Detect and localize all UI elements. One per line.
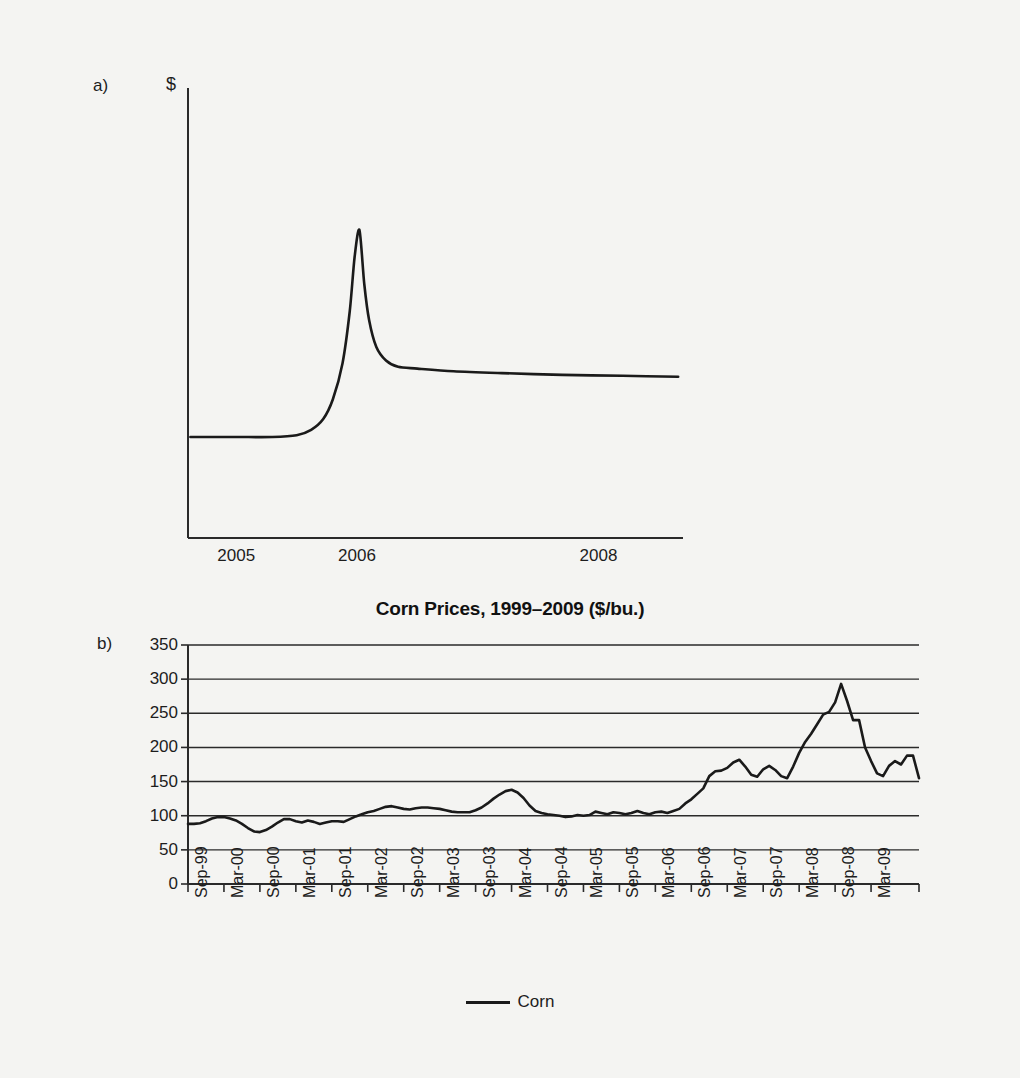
panel-b-xtick-label-sep-04: Sep-04: [554, 846, 570, 898]
panel-b-xtick-label-sep-03: Sep-03: [482, 846, 498, 898]
panel-b-data-curve: [188, 684, 919, 832]
panel-b-ytick-label-300: 300: [136, 670, 178, 687]
panel-b-ytick-label-250: 250: [136, 704, 178, 721]
panel-b-ytick-label-150: 150: [136, 773, 178, 790]
panel-b-plot: [0, 0, 1020, 1078]
panel-b-xtick-label-sep-02: Sep-02: [410, 846, 426, 898]
panel-b-xtick-label-mar-09: Mar-09: [877, 847, 893, 898]
legend-label-corn: Corn: [518, 992, 555, 1012]
panel-b-xtick-label-mar-00: Mar-00: [230, 847, 246, 898]
panel-b-xtick-label-sep-06: Sep-06: [697, 846, 713, 898]
panel-b-xtick-label-mar-02: Mar-02: [374, 847, 390, 898]
panel-b-xtick-label-mar-05: Mar-05: [589, 847, 605, 898]
panel-b-legend: Corn: [0, 992, 1020, 1012]
panel-b-ytick-label-100: 100: [136, 807, 178, 824]
panel-b-ytick-label-200: 200: [136, 738, 178, 755]
legend-line-swatch-corn: [466, 1001, 510, 1004]
panel-b-y-tick-marks: [181, 645, 188, 884]
panel-b-xtick-label-mar-03: Mar-03: [446, 847, 462, 898]
figure-container: a) $ 2005 2006 2008 Corn Prices, 1999–20…: [0, 0, 1020, 1078]
panel-b-xtick-label-mar-07: Mar-07: [733, 847, 749, 898]
panel-b-ytick-label-50: 50: [136, 841, 178, 858]
panel-b-xtick-label-sep-08: Sep-08: [841, 846, 857, 898]
panel-b-xtick-label-sep-05: Sep-05: [625, 846, 641, 898]
panel-b-xtick-label-mar-01: Mar-01: [302, 847, 318, 898]
panel-b-xtick-label-sep-99: Sep-99: [194, 846, 210, 898]
panel-b-xtick-label-mar-08: Mar-08: [805, 847, 821, 898]
panel-b-ytick-label-350: 350: [136, 636, 178, 653]
panel-b-xtick-label-sep-01: Sep-01: [338, 846, 354, 898]
panel-b-xtick-label-mar-04: Mar-04: [518, 847, 534, 898]
panel-b-ytick-label-0: 0: [136, 875, 178, 892]
panel-b-xtick-label-mar-06: Mar-06: [661, 847, 677, 898]
panel-b-xtick-label-sep-00: Sep-00: [266, 846, 282, 898]
panel-b-xtick-label-sep-07: Sep-07: [769, 846, 785, 898]
